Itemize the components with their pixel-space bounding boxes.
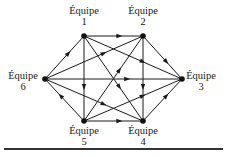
node-6 <box>42 76 48 82</box>
node-label-3-num: 3 <box>181 81 221 92</box>
edge-6-to-1 <box>45 36 84 79</box>
node-1 <box>81 33 87 39</box>
node-label-3-word: Équipe <box>181 70 221 81</box>
node-2 <box>140 33 146 39</box>
node-label-6-num: 6 <box>3 81 43 92</box>
bottom-rule <box>4 148 223 150</box>
node-label-4-word: Équipe <box>123 125 163 136</box>
arrowhead-icon <box>116 83 121 89</box>
node-4 <box>140 118 146 124</box>
arrowhead-icon <box>139 95 145 99</box>
node-label-6: Équipe 6 <box>3 70 43 92</box>
edge-5-to-6 <box>45 79 84 121</box>
arrowhead-icon <box>116 34 122 38</box>
edges <box>45 34 182 123</box>
node-label-3: Équipe 3 <box>181 70 221 92</box>
arrowhead-icon <box>82 84 86 90</box>
node-label-2: Équipe 2 <box>123 5 163 27</box>
node-label-2-word: Équipe <box>123 5 163 16</box>
node-label-5-word: Équipe <box>64 125 104 136</box>
node-5 <box>81 118 87 124</box>
arrowhead-icon <box>139 59 145 63</box>
node-label-4-num: 4 <box>123 136 163 147</box>
edge-2-to-3 <box>143 36 182 79</box>
arrowhead-icon <box>116 68 121 74</box>
node-label-2-num: 2 <box>123 16 163 27</box>
arrowhead-icon <box>141 84 145 90</box>
node-label-5: Équipe 5 <box>64 125 104 147</box>
node-label-6-word: Équipe <box>3 70 43 81</box>
node-label-5-num: 5 <box>64 136 104 147</box>
node-label-1-num: 1 <box>64 16 104 27</box>
arrowhead-icon <box>100 52 106 56</box>
edge-4-to-3 <box>143 79 182 121</box>
node-label-1: Équipe 1 <box>64 5 104 27</box>
arrowhead-icon <box>124 77 130 81</box>
node-label-1-word: Équipe <box>64 5 104 16</box>
node-label-4: Équipe 4 <box>123 125 163 147</box>
arrowhead-icon <box>100 101 106 105</box>
arrowhead-icon <box>116 119 122 123</box>
